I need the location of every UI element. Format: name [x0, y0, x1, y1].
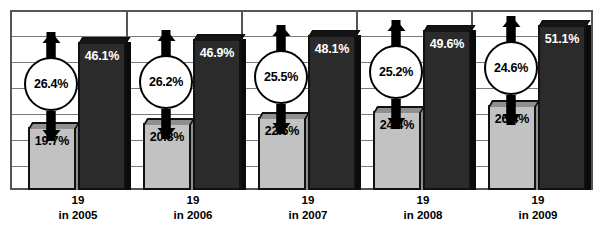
- bar-top-face: [193, 34, 245, 41]
- bar-value-label: 46.1%: [80, 49, 124, 63]
- bar-dark: 46.1%: [78, 42, 126, 190]
- bar-gray: 24.4%: [373, 111, 421, 190]
- x-axis-tick-label: 19 in 2008: [373, 193, 473, 223]
- bar-gray: 22.6%: [258, 117, 306, 190]
- x-tick-line1: 19: [143, 193, 243, 208]
- bar-group: 22.6% 48.1% 25.5%: [258, 10, 358, 190]
- bar-dark: 46.9%: [193, 39, 241, 190]
- bar-group: 26.4% 51.1% 24.6%: [488, 10, 588, 190]
- x-tick-line1: 19: [258, 193, 358, 208]
- bar-dark: 49.6%: [423, 30, 471, 190]
- x-axis-tick-label: 19 in 2006: [143, 193, 243, 223]
- x-axis-tick-label: 19 in 2009: [488, 193, 588, 223]
- x-tick-line2: in 2006: [143, 208, 243, 223]
- bar-value-label: 26.4%: [490, 112, 534, 126]
- bar-value-label: 49.6%: [425, 37, 469, 51]
- x-tick-line1: 19: [373, 193, 473, 208]
- bar-top-face: [488, 100, 540, 107]
- bar-dark: 51.1%: [538, 25, 586, 190]
- x-tick-line2: in 2009: [488, 208, 588, 223]
- bar-groups: 19.7% 46.1% 26.4%: [10, 10, 593, 190]
- bar-value-label: 51.1%: [540, 32, 584, 46]
- bar-top-face: [538, 20, 590, 27]
- x-tick-line1: 19: [28, 193, 128, 208]
- x-tick-line2: in 2005: [28, 208, 128, 223]
- x-axis-labels: 19 in 2005 19 in 2006 19 in 2007 19 in 2…: [10, 193, 593, 239]
- x-tick-line2: in 2007: [258, 208, 358, 223]
- bar-gray: 20.8%: [143, 123, 191, 190]
- x-axis-tick-label: 19 in 2005: [28, 193, 128, 223]
- bar-chart: 19.7% 46.1% 26.4%: [0, 0, 603, 239]
- bar-value-label: 48.1%: [310, 42, 354, 56]
- bar-top-face: [308, 30, 360, 37]
- bar-group: 24.4% 49.6% 25.2%: [373, 10, 473, 190]
- bar-value-label: 46.9%: [195, 46, 239, 60]
- bar-value-label: 20.8%: [145, 130, 189, 144]
- bar-top-face: [78, 37, 130, 44]
- bar-top-face: [423, 25, 475, 32]
- bar-group: 19.7% 46.1% 26.4%: [28, 10, 128, 190]
- bar-value-label: 24.4%: [375, 118, 419, 132]
- x-tick-line2: in 2008: [373, 208, 473, 223]
- bar-top-face: [143, 118, 195, 125]
- bar-value-label: 19.7%: [30, 134, 74, 148]
- bar-gray: 19.7%: [28, 127, 76, 190]
- bar-value-label: 22.6%: [260, 124, 304, 138]
- bar-top-face: [373, 106, 425, 113]
- x-tick-line1: 19: [488, 193, 588, 208]
- bar-gray: 26.4%: [488, 105, 536, 190]
- bar-group: 20.8% 46.9% 26.2%: [143, 10, 243, 190]
- x-axis-tick-label: 19 in 2007: [258, 193, 358, 223]
- bar-dark: 48.1%: [308, 35, 356, 190]
- bar-top-face: [258, 112, 310, 119]
- bar-top-face: [28, 122, 80, 129]
